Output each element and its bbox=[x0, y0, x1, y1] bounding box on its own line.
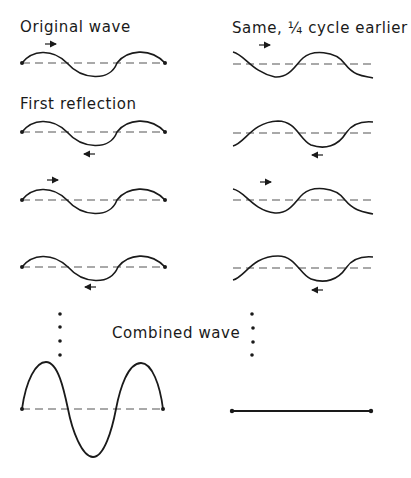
left-wave-reflection-1 bbox=[20, 121, 167, 154]
left-wave-reflection-2 bbox=[20, 180, 167, 214]
fixed-endpoint-icon bbox=[20, 198, 24, 202]
left-wave-reflection-3 bbox=[20, 256, 167, 287]
fixed-endpoint-icon bbox=[20, 61, 24, 65]
right-wave-shifted-reflection-3 bbox=[233, 256, 373, 290]
left-wave-original bbox=[20, 44, 167, 77]
fixed-endpoint-icon bbox=[20, 407, 24, 411]
fixed-endpoint-icon bbox=[20, 265, 24, 269]
wave-diagram bbox=[0, 0, 411, 478]
fixed-endpoint-icon bbox=[369, 409, 373, 413]
fixed-endpoint-icon bbox=[163, 265, 167, 269]
right-wave-shifted-original bbox=[233, 45, 373, 78]
fixed-endpoint-icon bbox=[163, 61, 167, 65]
left-combined-standing-wave bbox=[20, 362, 165, 457]
fixed-endpoint-icon bbox=[163, 130, 167, 134]
right-combined-flat-line bbox=[230, 409, 373, 413]
fixed-endpoint-icon bbox=[163, 198, 167, 202]
ellipsis-right-icon bbox=[250, 312, 255, 357]
right-wave-shifted-reflection-1 bbox=[233, 121, 373, 155]
fixed-endpoint-icon bbox=[230, 409, 234, 413]
fixed-endpoint-icon bbox=[20, 130, 24, 134]
ellipsis-left-icon bbox=[58, 312, 62, 357]
right-wave-shifted-reflection-2 bbox=[233, 182, 373, 214]
fixed-endpoint-icon bbox=[161, 407, 165, 411]
